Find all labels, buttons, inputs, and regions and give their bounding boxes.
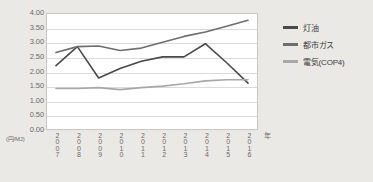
y-axis-tick-label: 2.50 — [30, 53, 44, 61]
x-axis-tick-label: 2016 — [243, 132, 253, 158]
y-axis: 4.003.503.002.502.001.501.000.500.00 — [8, 13, 44, 130]
series-line — [56, 80, 248, 90]
legend-item[interactable]: 都市ガス — [283, 36, 369, 53]
y-axis-tick-label: 1.50 — [30, 82, 44, 90]
legend-swatch-icon — [283, 60, 298, 63]
legend-label: 都市ガス — [303, 39, 334, 50]
y-axis-tick-label: 4.00 — [30, 9, 44, 17]
y-axis-tick-label: 2.00 — [30, 68, 44, 76]
x-axis-tick-label: 2013 — [179, 132, 189, 158]
x-axis-unit-label: 年 — [262, 132, 272, 139]
legend-label: 灯油 — [303, 22, 319, 33]
series-line — [56, 20, 248, 52]
legend-item[interactable]: 電気(COP4) — [283, 53, 369, 70]
series-layer — [46, 13, 258, 130]
y-axis-tick-label: 0.50 — [30, 111, 44, 119]
legend-swatch-icon — [283, 43, 298, 46]
y-axis-tick-label: 0.00 — [30, 126, 44, 134]
y-axis-tick-label: 3.50 — [30, 24, 44, 32]
y-axis-unit-label: (円/MJ) — [6, 134, 24, 143]
y-axis-tick-label: 3.00 — [30, 38, 44, 46]
x-axis-tick-label: 2015 — [222, 132, 232, 158]
chart-legend: 灯油都市ガス電気(COP4) — [283, 19, 369, 70]
x-axis-tick-label: 2010 — [115, 132, 125, 158]
x-axis-tick-label: 2007 — [51, 132, 61, 158]
x-axis: 2007200820092010201120122013201420152016 — [46, 132, 258, 178]
x-axis-tick-label: 2011 — [136, 132, 146, 158]
y-axis-tick-label: 1.00 — [30, 97, 44, 105]
line-chart: 4.003.503.002.502.001.501.000.500.00 (円/… — [0, 0, 373, 182]
x-axis-tick-label: 2014 — [200, 132, 210, 158]
legend-item[interactable]: 灯油 — [283, 19, 369, 36]
x-axis-tick-label: 2012 — [158, 132, 168, 158]
series-line — [56, 44, 248, 83]
x-axis-tick-label: 2008 — [72, 132, 82, 158]
legend-swatch-icon — [283, 26, 298, 29]
x-axis-tick-label: 2009 — [94, 132, 104, 158]
legend-label: 電気(COP4) — [303, 56, 345, 67]
